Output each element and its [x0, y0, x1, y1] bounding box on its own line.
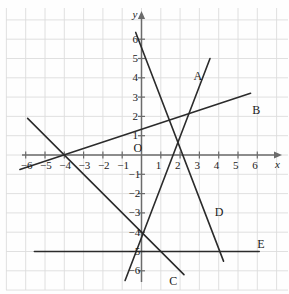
line-label-d: D — [215, 206, 224, 218]
grid-lines — [6, 8, 288, 290]
x-axis-tick-label: 4 — [214, 160, 220, 171]
x-axis-tick-label: 6 — [252, 160, 258, 171]
y-axis-tick-label: −5 — [129, 246, 141, 257]
y-axis-tick-label: −4 — [129, 227, 141, 238]
line-label-e: E — [257, 238, 264, 250]
y-axis-tick-label: −1 — [129, 169, 141, 180]
plotted-lines — [20, 32, 259, 280]
line-label-b: B — [252, 104, 260, 116]
y-axis-tick-label: 2 — [133, 111, 139, 122]
y-axis-name: y — [133, 9, 138, 20]
y-axis-tick-label: −6 — [129, 265, 141, 276]
x-axis-tick-label: 2 — [175, 160, 181, 171]
y-axis-arrow-icon — [138, 11, 145, 19]
y-axis-tick-label: 4 — [133, 72, 139, 83]
x-axis-tick-label: −2 — [98, 160, 110, 171]
y-axis-tick-label: 5 — [133, 53, 139, 64]
y-axis-tick-label: 6 — [133, 34, 139, 45]
line-label-c: C — [169, 275, 177, 287]
x-axis-tick-label: 5 — [233, 160, 239, 171]
y-axis-tick-label: 1 — [133, 130, 139, 141]
x-axis-tick-label: −6 — [21, 160, 33, 171]
x-axis-tick-label: −3 — [79, 160, 91, 171]
line-label-a: A — [193, 70, 202, 82]
plotted-line-d — [136, 32, 224, 261]
y-axis-tick-label: −3 — [129, 207, 141, 218]
x-axis-tick-label: −1 — [117, 160, 129, 171]
x-axis-tick-label: 3 — [194, 160, 200, 171]
origin-label: O — [134, 142, 143, 154]
x-axis-tick-label: 1 — [156, 160, 162, 171]
y-axis-tick-label: −2 — [129, 188, 141, 199]
axes — [22, 11, 282, 282]
x-axis-tick-label: −4 — [59, 160, 71, 171]
x-axis-name: x — [275, 159, 280, 170]
coordinate-graph-figure: −6−5−4−3−2−1123456654321−1−2−3−4−5−6OxyA… — [0, 0, 289, 294]
x-axis-tick-label: −5 — [40, 160, 52, 171]
y-axis-tick-label: 3 — [133, 92, 139, 103]
graph-canvas — [0, 0, 289, 294]
